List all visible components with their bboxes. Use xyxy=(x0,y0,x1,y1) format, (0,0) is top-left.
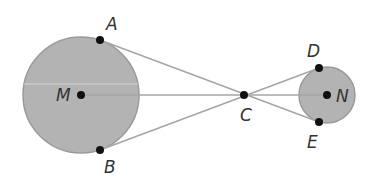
label-d: D xyxy=(307,41,320,61)
point-m xyxy=(77,91,85,99)
label-e: E xyxy=(307,132,318,152)
label-a: A xyxy=(105,14,118,34)
label-b: B xyxy=(104,157,116,177)
diagram-canvas: A B M C D E N xyxy=(0,0,372,178)
point-e xyxy=(315,118,323,126)
label-m: M xyxy=(56,85,71,105)
point-a xyxy=(96,36,104,44)
geometry-diagram: A B M C D E N xyxy=(0,0,372,178)
point-b xyxy=(96,146,104,154)
point-n xyxy=(323,91,331,99)
label-n: N xyxy=(336,86,349,106)
point-d xyxy=(315,64,323,72)
point-c xyxy=(240,91,248,99)
label-c: C xyxy=(240,105,252,125)
